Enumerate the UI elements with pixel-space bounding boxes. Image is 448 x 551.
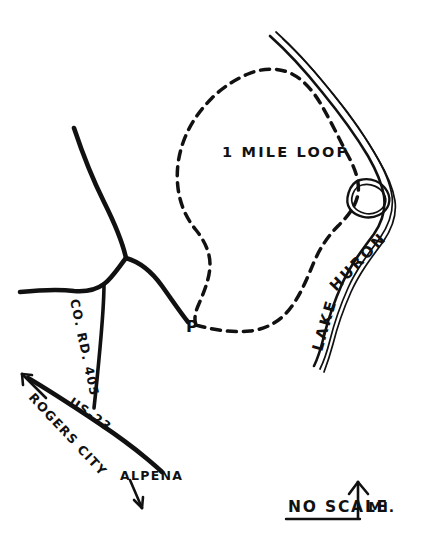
map-canvas: 1 MILE LOOP LAKE HURON P CO. RD. 405 US-… [0,0,448,551]
one-mile-loop-trail [177,69,358,332]
label-one-mile-loop: 1 MILE LOOP [222,144,349,160]
label-huron-word: HURON [326,229,391,295]
road-west-stub [20,258,126,292]
trail-map: 1 MILE LOOP LAKE HURON P CO. RD. 405 US-… [0,0,448,551]
label-lake-word: LAKE [309,297,341,353]
label-parking: P [186,317,199,336]
road-to-parking [126,258,188,322]
label-alpena: ALPENA [120,468,183,483]
direction-arrow-alpena [130,480,143,508]
scale-bar: NO SCALE MI. [286,482,395,519]
label-scale-unit: MI. [368,499,395,515]
label-county-road-405: CO. RD. 405 [67,298,102,398]
road-north-branch [74,128,126,258]
